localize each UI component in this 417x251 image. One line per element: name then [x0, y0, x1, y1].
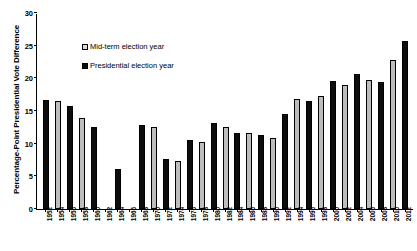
- x-axis-label-2012: 2012: [405, 207, 412, 221]
- chart-legend: Mid-term election yearPresidential elect…: [82, 42, 174, 80]
- y-axis-tick-label: 10: [25, 139, 33, 148]
- bar-slot: 2010: [387, 14, 399, 209]
- bar-1956[interactable]: [67, 106, 73, 209]
- bar-2002[interactable]: [342, 85, 348, 209]
- y-axis-title: Percentage-Point Presidential Vote Diffe…: [12, 10, 21, 210]
- y-axis-tick-label: 5: [29, 172, 33, 181]
- y-axis-tick-label: 20: [25, 74, 33, 83]
- bar-slot: 2000: [327, 14, 339, 209]
- legend-item-midterm[interactable]: Mid-term election year: [82, 42, 174, 51]
- bar-slot: 1980: [208, 14, 220, 209]
- bar-1986[interactable]: [246, 133, 252, 209]
- bar-slot: 1988: [255, 14, 267, 209]
- bar-1976[interactable]: [187, 140, 193, 209]
- bar-slot: 1990: [267, 14, 279, 209]
- bar-slot: 1952: [40, 14, 52, 209]
- bar-slot: 1994: [291, 14, 303, 209]
- legend-label-presidential: Presidential election year: [90, 61, 174, 70]
- bar-slot: 1996: [303, 14, 315, 209]
- bar-1980[interactable]: [211, 123, 217, 209]
- bar-1996[interactable]: [306, 101, 312, 209]
- y-axis-tick-label: 15: [25, 107, 33, 116]
- chart-container: Percentage-Point Presidential Vote Diffe…: [0, 0, 417, 251]
- bar-1972[interactable]: [163, 159, 169, 209]
- bar-2012[interactable]: [402, 41, 408, 209]
- bar-slot: 1984: [232, 14, 244, 209]
- bar-1952[interactable]: [43, 100, 49, 209]
- bar-slot: 1976: [184, 14, 196, 209]
- bar-slot: 2012: [399, 14, 411, 209]
- bar-slot: 2004: [351, 14, 363, 209]
- bar-1990[interactable]: [270, 138, 276, 209]
- y-axis-tick-label: 30: [25, 9, 33, 18]
- bar-1984[interactable]: [234, 133, 240, 209]
- legend-item-presidential[interactable]: Presidential election year: [82, 61, 174, 70]
- bar-slot: 2008: [375, 14, 387, 209]
- bar-slot: 1978: [196, 14, 208, 209]
- bar-slot: 2002: [339, 14, 351, 209]
- y-axis-tick: [34, 12, 37, 13]
- legend-swatch-presidential: [82, 63, 88, 69]
- bar-slot: 2006: [363, 14, 375, 209]
- bar-1978[interactable]: [199, 142, 205, 209]
- legend-swatch-midterm: [82, 44, 88, 50]
- bar-1992[interactable]: [282, 114, 288, 209]
- y-axis-tick-label: 0: [29, 205, 33, 214]
- bar-1994[interactable]: [294, 99, 300, 209]
- y-axis-tick-label: 25: [25, 41, 33, 50]
- bar-slot: 1982: [220, 14, 232, 209]
- bar-slot: 1986: [243, 14, 255, 209]
- bar-1982[interactable]: [223, 127, 229, 209]
- bar-2004[interactable]: [354, 74, 360, 209]
- bar-1960[interactable]: [91, 127, 97, 209]
- bar-2010[interactable]: [390, 60, 396, 209]
- legend-label-midterm: Mid-term election year: [90, 42, 164, 51]
- bar-1958[interactable]: [79, 118, 85, 209]
- bar-1968[interactable]: [139, 125, 145, 209]
- bar-2008[interactable]: [378, 82, 384, 209]
- bar-slot: 1956: [64, 14, 76, 209]
- bar-1970[interactable]: [151, 127, 157, 209]
- bar-1988[interactable]: [258, 135, 264, 209]
- bar-1954[interactable]: [55, 101, 61, 209]
- bar-1998[interactable]: [318, 96, 324, 209]
- bar-slot: 1992: [279, 14, 291, 209]
- bar-1974[interactable]: [175, 161, 181, 209]
- bar-2006[interactable]: [366, 80, 372, 209]
- bar-slot: 1998: [315, 14, 327, 209]
- bar-2000[interactable]: [330, 81, 336, 209]
- bar-slot: 1954: [52, 14, 64, 209]
- bar-1964[interactable]: [115, 169, 121, 210]
